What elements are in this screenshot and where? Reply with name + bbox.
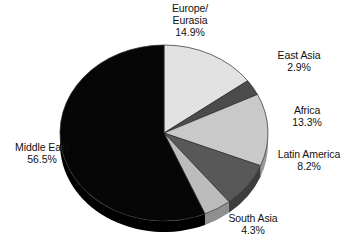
- slice-label-latin-america-line1: Latin America: [264, 148, 354, 160]
- slice-value-south-asia: 4.3%: [214, 224, 292, 236]
- slice-label-latin-america: Latin America 8.2%: [264, 148, 354, 172]
- slice-label-middle-east-line1: Middle East: [0, 141, 84, 153]
- slice-label-europe-eurasia-line2: Eurasia: [148, 14, 232, 26]
- slice-value-latin-america: 8.2%: [264, 160, 354, 172]
- slice-label-south-asia-line1: South Asia: [214, 212, 292, 224]
- slice-value-europe-eurasia: 14.9%: [148, 26, 232, 38]
- slice-value-middle-east: 56.5%: [0, 153, 84, 165]
- slice-label-east-asia: East Asia 2.9%: [258, 49, 340, 73]
- slice-label-south-asia: South Asia 4.3%: [214, 212, 292, 236]
- slice-label-africa: Africa 13.3%: [274, 104, 340, 128]
- pie-chart-figure: Europe/ Eurasia 14.9% East Asia 2.9% Afr…: [0, 0, 355, 247]
- slice-label-east-asia-line1: East Asia: [258, 49, 340, 61]
- slice-label-africa-line1: Africa: [274, 104, 340, 116]
- slice-value-africa: 13.3%: [274, 116, 340, 128]
- slice-value-east-asia: 2.9%: [258, 61, 340, 73]
- slice-label-middle-east: Middle East 56.5%: [0, 141, 84, 165]
- slice-label-europe-eurasia: Europe/ Eurasia 14.9%: [148, 2, 232, 39]
- slice-label-europe-eurasia-line1: Europe/: [148, 2, 232, 14]
- pie-slice-group: [60, 45, 268, 221]
